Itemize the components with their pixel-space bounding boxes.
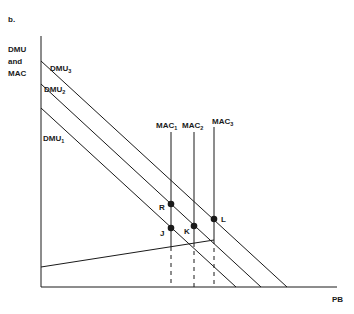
panel-label: b. bbox=[8, 15, 15, 24]
point-r-label: R bbox=[159, 203, 165, 212]
dmu2-label: DMU2 bbox=[44, 85, 65, 95]
x-axis-label: PB bbox=[332, 295, 343, 304]
point-k-label: K bbox=[184, 227, 190, 236]
dmu1-label: DMU1 bbox=[43, 134, 64, 144]
point-l-label: L bbox=[221, 215, 226, 224]
point-j bbox=[168, 225, 175, 232]
dmu2-line bbox=[41, 84, 261, 287]
mac3-label: MAC3 bbox=[212, 117, 233, 127]
mac2-label: MAC2 bbox=[182, 121, 203, 131]
y-axis-label-line-2: and bbox=[8, 57, 22, 66]
diagram-canvas: b. DMU and MAC PB DMU3 DMU2 DMU1 MAC1 MA… bbox=[0, 0, 354, 314]
point-j-label: J bbox=[160, 229, 164, 238]
dmu3-line bbox=[41, 61, 287, 287]
point-l bbox=[211, 216, 218, 223]
point-r bbox=[168, 201, 175, 208]
y-axis-label-line-1: DMU bbox=[8, 45, 26, 54]
dmu3-label: DMU3 bbox=[50, 64, 71, 74]
base-mac-line bbox=[41, 240, 214, 267]
mac1-label: MAC1 bbox=[156, 121, 177, 131]
dmu1-line bbox=[41, 108, 236, 287]
y-axis-label-line-3: MAC bbox=[8, 69, 26, 78]
point-k bbox=[191, 223, 198, 230]
